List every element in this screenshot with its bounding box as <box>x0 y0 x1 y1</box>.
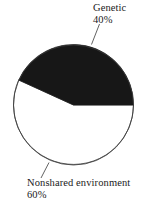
slice-label-nonshared-environment: Nonshared environment 60% <box>27 177 130 200</box>
slice-label-nonshared-environment-percent: 60% <box>27 189 130 201</box>
pie-chart-graphic <box>0 0 148 207</box>
slice-label-nonshared-environment-text: Nonshared environment <box>27 177 130 188</box>
leader-line-genetic <box>92 24 100 45</box>
leader-line-nonshared-environment <box>41 163 49 179</box>
slice-label-genetic: Genetic 40% <box>93 2 126 25</box>
slice-label-genetic-percent: 40% <box>93 14 126 26</box>
slice-label-genetic-text: Genetic <box>93 2 126 13</box>
pie-chart-figure: Genetic 40% Nonshared environment 60% <box>0 0 148 207</box>
